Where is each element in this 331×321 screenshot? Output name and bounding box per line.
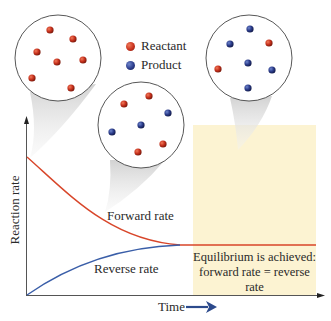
product-dot-icon — [126, 61, 135, 70]
inset-circle-start — [15, 15, 101, 101]
reverse-rate-label: Reverse rate — [94, 262, 159, 275]
x-axis-arrow-icon — [317, 293, 325, 298]
legend-item-product: Product — [126, 57, 181, 73]
y-axis-arrow-icon — [24, 116, 29, 124]
inset-circle-equilibrium — [206, 15, 292, 101]
legend-label: Product — [141, 57, 181, 73]
legend-item-reactant: Reactant — [126, 38, 186, 54]
x-axis-label: Time — [158, 300, 185, 313]
inset-circle-middle — [98, 82, 184, 168]
forward-rate-label: Forward rate — [107, 209, 174, 222]
reactant-dot-icon — [126, 42, 135, 51]
equilibrium-note-line1: Equilibrium is achieved: — [193, 250, 316, 265]
equilibrium-note: Equilibrium is achieved: forward rate = … — [193, 250, 316, 295]
equilibrium-note-line2: forward rate = reverse rate — [193, 265, 316, 295]
legend-label: Reactant — [141, 38, 186, 54]
y-axis-label: Reaction rate — [7, 176, 23, 245]
equilibrium-diagram: Reactant Product Reaction rate Forward r… — [0, 0, 331, 321]
